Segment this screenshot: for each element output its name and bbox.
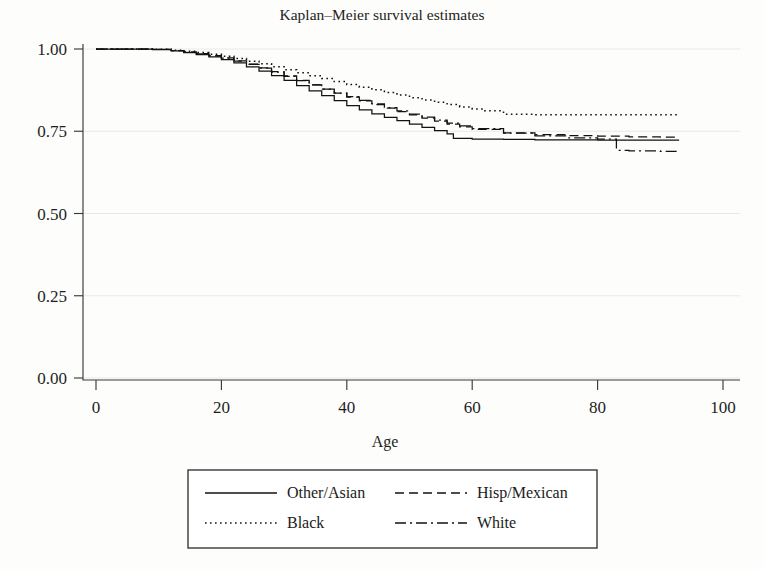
y-axis: 0.000.250.500.751.00 <box>37 40 83 388</box>
y-tick-label: 0.50 <box>37 205 67 224</box>
legend-label: White <box>477 514 516 531</box>
x-tick-label: 80 <box>589 398 606 417</box>
curve-black <box>96 49 679 115</box>
gridlines <box>84 49 740 378</box>
curve-hisp-mexican <box>96 49 679 137</box>
x-tick-label: 100 <box>710 398 736 417</box>
legend-box <box>188 470 597 548</box>
chart-svg: Kaplan–Meier survival estimates 0.000.25… <box>0 0 764 569</box>
y-tick-label: 0.75 <box>37 122 67 141</box>
legend: Other/AsianHisp/MexicanBlackWhite <box>188 470 597 548</box>
kaplan-meier-figure: Kaplan–Meier survival estimates 0.000.25… <box>0 0 764 569</box>
legend-label: Other/Asian <box>287 484 365 501</box>
chart-title: Kaplan–Meier survival estimates <box>280 6 485 23</box>
legend-label: Hisp/Mexican <box>477 484 568 502</box>
x-axis-title: Age <box>372 433 399 451</box>
x-tick-label: 0 <box>92 398 101 417</box>
x-tick-label: 60 <box>464 398 481 417</box>
x-tick-label: 40 <box>338 398 355 417</box>
axis-lines <box>83 44 740 380</box>
y-tick-label: 0.00 <box>37 369 67 388</box>
x-axis: 020406080100 <box>92 380 736 417</box>
y-tick-label: 1.00 <box>37 40 67 59</box>
y-tick-label: 0.25 <box>37 287 67 306</box>
legend-label: Black <box>287 514 324 531</box>
x-tick-label: 20 <box>213 398 230 417</box>
curve-other-asian <box>96 49 679 140</box>
survival-curves <box>96 49 679 151</box>
